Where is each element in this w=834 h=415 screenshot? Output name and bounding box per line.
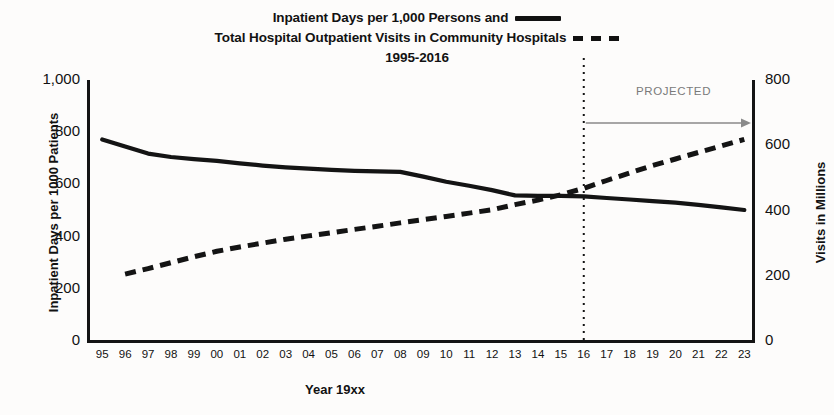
series-inpatient-days-line [102, 140, 744, 211]
plot-area [0, 0, 834, 415]
projected-arrow [586, 119, 751, 128]
